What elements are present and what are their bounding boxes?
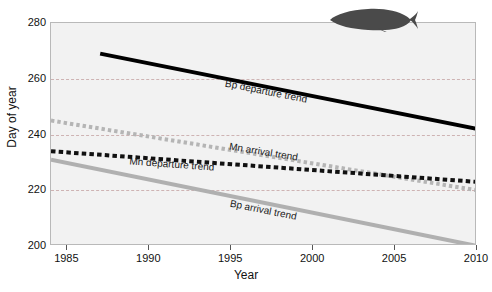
y-tick-label-200: 200 (28, 239, 46, 251)
x-tick-2000 (312, 245, 313, 250)
plot-area: Bp departure trendMn arrival trendMn dep… (50, 22, 476, 245)
x-tick-label-1990: 1990 (136, 252, 160, 264)
y-tick-label-260: 260 (28, 72, 46, 84)
x-tick-2005 (394, 245, 395, 250)
x-tick-1985 (66, 245, 67, 250)
x-axis-label: Year (0, 268, 492, 282)
x-tick-label-2005: 2005 (382, 252, 406, 264)
series-line-3 (51, 160, 476, 245)
y-tick-label-280: 280 (28, 16, 46, 28)
x-tick-label-1985: 1985 (54, 252, 78, 264)
chart-figure: Bp departure trendMn arrival trendMn dep… (0, 0, 492, 292)
x-tick-1995 (230, 245, 231, 250)
y-tick-label-240: 240 (28, 128, 46, 140)
x-tick-2010 (476, 245, 477, 250)
x-tick-label-2000: 2000 (300, 252, 324, 264)
x-tick-1990 (148, 245, 149, 250)
y-tick-label-220: 220 (28, 183, 46, 195)
y-axis-label: Day of year (5, 67, 19, 167)
whale-silhouette-icon (326, 6, 418, 32)
x-tick-label-2010: 2010 (464, 252, 488, 264)
x-tick-label-1995: 1995 (218, 252, 242, 264)
